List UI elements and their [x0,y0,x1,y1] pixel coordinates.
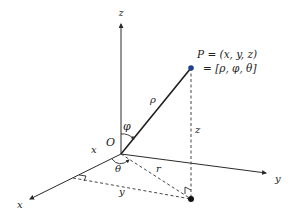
point-P [188,65,194,71]
z-axis-label: z [118,8,124,18]
point-P-coords-line1: P = (x, y, z) [196,48,257,60]
origin-label: O [106,136,115,149]
rho-segment [121,68,191,154]
y-axis-label: y [274,173,281,184]
y-axis [121,154,266,173]
theta-label: θ [115,163,121,174]
r-label: r [156,163,162,174]
y-component-label: y [118,186,125,197]
spherical-coordinates-diagram: z y x O P = (x, y, z) = [ρ, φ, θ] ρ φ θ … [0,0,293,217]
x-component-label: x [91,144,97,155]
point-projection [188,196,194,202]
phi-label: φ [123,120,131,133]
phi-angle-arc [121,134,134,139]
z-height-label: z [194,124,201,135]
x-axis [30,154,121,199]
right-angle-marker-projection [185,187,191,194]
y-component-dashed-line [73,178,191,199]
r-dashed-line [121,154,191,199]
point-P-coords-line2: = [ρ, φ, θ] [203,62,257,74]
rho-label: ρ [149,94,156,105]
x-axis-label: x [17,199,23,210]
